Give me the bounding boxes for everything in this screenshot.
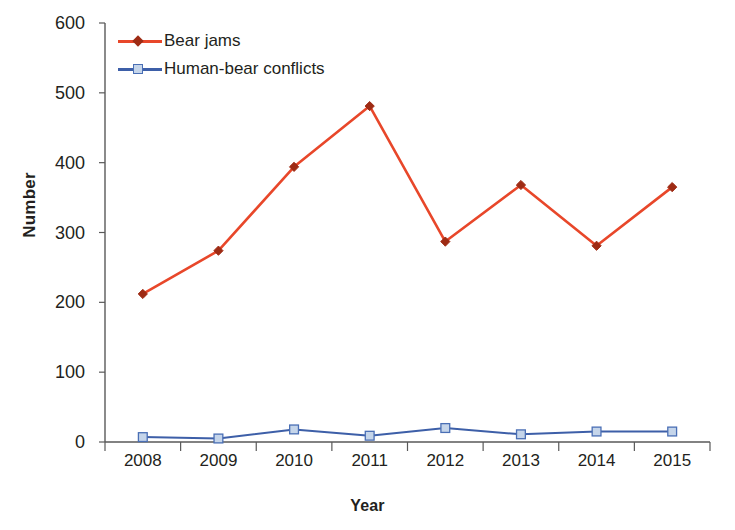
legend-square-marker-icon bbox=[133, 64, 143, 74]
data-point-marker bbox=[441, 424, 450, 433]
data-point-marker bbox=[290, 425, 299, 434]
y-axis-tick-label: 0 bbox=[25, 433, 85, 451]
legend-swatch bbox=[118, 60, 162, 78]
data-point-marker bbox=[668, 427, 677, 436]
x-axis-tick-label: 2014 bbox=[557, 452, 637, 469]
x-axis-tick-label: 2015 bbox=[632, 452, 712, 469]
data-point-marker bbox=[138, 433, 147, 442]
y-axis-tick-label: 100 bbox=[25, 363, 85, 381]
legend-label: Bear jams bbox=[162, 31, 241, 51]
series-line-0 bbox=[143, 106, 672, 294]
data-point-marker bbox=[365, 431, 374, 440]
y-axis-tick-label: 400 bbox=[25, 154, 85, 172]
y-axis-tick-label: 200 bbox=[25, 293, 85, 311]
y-axis-tick-label: 600 bbox=[25, 14, 85, 32]
x-axis-title: Year bbox=[0, 497, 735, 515]
data-point-marker bbox=[592, 427, 601, 436]
legend-label: Human-bear conflicts bbox=[162, 59, 325, 79]
y-axis-tick-labels: 0100200300400500600 bbox=[25, 0, 85, 530]
x-axis-tick-label: 2009 bbox=[178, 452, 258, 469]
x-axis-tick-label: 2011 bbox=[330, 452, 410, 469]
plot-area bbox=[105, 23, 710, 442]
legend-item[interactable]: Human-bear conflicts bbox=[118, 55, 378, 83]
x-axis-tick-label: 2010 bbox=[254, 452, 334, 469]
y-axis-tick-label: 300 bbox=[25, 224, 85, 242]
line-chart: Number 0100200300400500600 2008200920102… bbox=[0, 0, 735, 530]
legend-swatch bbox=[118, 32, 162, 50]
y-axis-tick-label: 500 bbox=[25, 84, 85, 102]
chart-legend: Bear jamsHuman-bear conflicts bbox=[118, 27, 378, 83]
x-axis-tick-label: 2008 bbox=[103, 452, 183, 469]
x-axis-tick-labels: 20082009201020112012201320142015 bbox=[105, 452, 710, 482]
plot-svg bbox=[105, 23, 710, 442]
legend-diamond-marker-icon bbox=[132, 35, 143, 46]
x-axis-tick-label: 2012 bbox=[405, 452, 485, 469]
data-point-marker bbox=[214, 434, 223, 443]
x-axis-tick-label: 2013 bbox=[481, 452, 561, 469]
legend-item[interactable]: Bear jams bbox=[118, 27, 378, 55]
data-point-marker bbox=[517, 430, 526, 439]
